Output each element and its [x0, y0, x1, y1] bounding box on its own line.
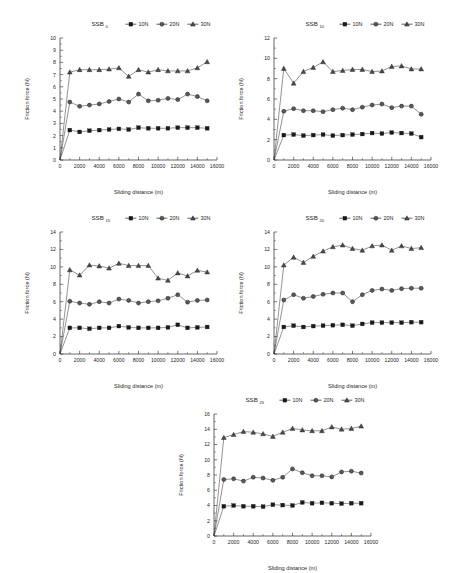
- x-tick-label: 2000: [288, 357, 300, 363]
- data-point: [321, 110, 325, 114]
- data-point: [186, 300, 190, 304]
- data-point: [321, 133, 325, 137]
- data-point: [97, 326, 101, 330]
- y-tick-label: 0: [207, 533, 210, 539]
- data-point: [331, 134, 335, 138]
- data-point: [68, 100, 72, 104]
- data-point: [419, 135, 423, 139]
- y-tick-label: 10: [264, 55, 270, 61]
- x-tick-label: 4000: [307, 163, 319, 169]
- y-tick-label: 4: [267, 116, 270, 122]
- legend-marker-10N: [343, 22, 347, 26]
- data-point: [176, 323, 180, 327]
- data-point: [195, 126, 199, 130]
- data-point: [360, 293, 364, 297]
- x-axis-title: Sliding distance (m): [114, 189, 163, 195]
- y-tick-label: 2: [267, 137, 270, 143]
- sample-label-subscript: 0: [105, 24, 108, 29]
- data-point: [87, 263, 92, 267]
- data-point: [205, 325, 209, 329]
- legend-marker-10N: [283, 398, 287, 402]
- data-point: [321, 59, 326, 63]
- y-tick-label: 1: [53, 145, 56, 151]
- data-point: [205, 126, 209, 130]
- data-point: [251, 475, 255, 479]
- data-point: [68, 299, 72, 303]
- data-point: [399, 244, 404, 248]
- y-axis-title: Friction force (N): [24, 272, 30, 314]
- legend-label-20N: 20N: [169, 21, 179, 27]
- y-tick-label: 14: [264, 229, 270, 235]
- data-point: [311, 109, 315, 113]
- chart-panel-1: 0200040006000800010000120001400016000012…: [18, 8, 231, 200]
- legend-marker-10N: [343, 216, 347, 220]
- y-tick-label: 8: [267, 281, 270, 287]
- chart-svg: 0200040006000800010000120001400016000024…: [232, 202, 445, 394]
- data-point: [389, 248, 394, 252]
- data-point: [156, 126, 160, 130]
- data-point: [331, 323, 335, 327]
- data-point: [176, 293, 180, 297]
- x-tick-label: 6000: [267, 539, 279, 545]
- series-line: [60, 94, 207, 160]
- data-point: [400, 321, 404, 325]
- data-point: [261, 476, 265, 480]
- data-point: [281, 475, 285, 479]
- data-point: [281, 263, 286, 267]
- series-line: [214, 502, 361, 536]
- data-point: [311, 324, 315, 328]
- series-10N: [60, 126, 209, 160]
- x-tick-label: 12000: [171, 357, 186, 363]
- data-point: [320, 474, 324, 478]
- data-point: [302, 325, 306, 329]
- y-tick-label: 0: [267, 351, 270, 357]
- x-tick-label: 6000: [113, 357, 125, 363]
- data-point: [117, 97, 121, 101]
- y-axis-title: Friction force (N): [238, 78, 244, 120]
- series-30N: [274, 59, 424, 160]
- data-point: [310, 474, 314, 478]
- x-tick-label: 4000: [307, 357, 319, 363]
- x-tick-label: 0: [273, 163, 276, 169]
- x-tick-label: 14000: [190, 163, 205, 169]
- data-point: [400, 131, 404, 135]
- data-point: [146, 99, 150, 103]
- data-point: [127, 128, 131, 132]
- data-point: [232, 477, 236, 481]
- x-tick-label: 0: [213, 539, 216, 545]
- data-point: [175, 271, 180, 275]
- series-20N: [214, 467, 363, 536]
- data-point: [78, 104, 82, 108]
- data-point: [127, 298, 131, 302]
- data-point: [281, 503, 285, 507]
- data-point: [127, 326, 131, 330]
- chart-svg: 0200040006000800010000120001400016000024…: [18, 202, 231, 394]
- chart-svg: 0200040006000800010000120001400016000024…: [172, 384, 385, 573]
- x-tick-label: 10000: [365, 357, 380, 363]
- data-point: [137, 92, 141, 96]
- data-point: [292, 293, 296, 297]
- series-line: [274, 288, 421, 354]
- data-point: [186, 326, 190, 330]
- data-point: [146, 326, 150, 330]
- series-line: [274, 133, 421, 160]
- x-axis-title: Sliding distance (m): [268, 565, 317, 571]
- data-point: [370, 321, 374, 325]
- y-axis-title: Friction force (N): [178, 454, 184, 496]
- data-point: [330, 475, 334, 479]
- data-point: [351, 108, 355, 112]
- data-point: [321, 292, 325, 296]
- x-axis-title: Sliding distance (m): [328, 189, 377, 195]
- data-point: [156, 98, 160, 102]
- data-point: [321, 249, 326, 253]
- chart-panel-4: 0200040006000800010000120001400016000024…: [232, 202, 445, 394]
- data-point: [360, 132, 364, 136]
- data-point: [360, 105, 364, 109]
- data-point: [310, 501, 314, 505]
- x-tick-label: 10000: [151, 357, 166, 363]
- sample-label: SSB: [305, 20, 317, 27]
- data-point: [88, 327, 92, 331]
- series-30N: [60, 59, 210, 160]
- y-tick-label: 2: [53, 333, 56, 339]
- x-tick-label: 8000: [287, 539, 299, 545]
